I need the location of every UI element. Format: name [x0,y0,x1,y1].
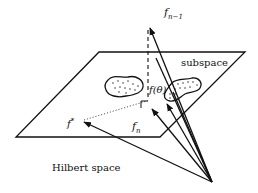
label-hilbert-space: Hilbert space [52,162,121,173]
arrow-f-theta [167,104,212,182]
diagram-svg: fn−1 subspace f(θ) f* fn Hilbert space [0,0,258,193]
arrow-extra-2 [156,58,212,182]
blob-left [105,77,143,97]
label-f-theta: f(θ) [148,84,167,95]
label-f-n-minus-1: fn−1 [163,6,183,21]
arrow-f-n [152,109,212,182]
label-f-star: f* [66,117,75,129]
hilbert-space-diagram: fn−1 subspace f(θ) f* fn Hilbert space [0,0,258,193]
label-f-n: fn [131,120,141,135]
label-subspace: subspace [181,57,228,68]
arrow-f-star [84,122,212,182]
dotted-distance-line [84,100,150,120]
arrow-f-n-minus-1 [150,28,212,182]
